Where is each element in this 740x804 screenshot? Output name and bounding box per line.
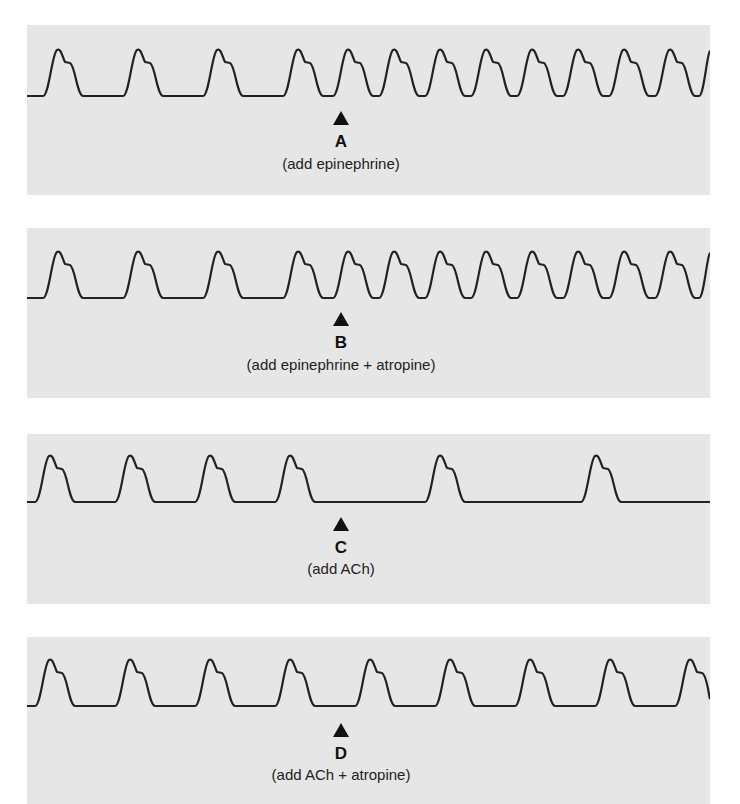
panel-letter: B [335,333,347,353]
triangle-marker-icon [333,111,349,125]
panel-letter: D [335,744,347,764]
panel-b: B (add epinephrine + atropine) [27,228,710,398]
panel-caption: (add ACh) [307,560,375,577]
panel-caption: (add ACh + atropine) [272,766,411,783]
panel-letter: C [335,538,347,558]
triangle-marker-icon [333,723,349,737]
panel-letter: A [335,132,347,152]
panel-d: D (add ACh + atropine) [27,637,710,804]
panel-c: C (add ACh) [27,434,710,604]
heartbeat-trace-c [27,434,710,604]
panel-caption: (add epinephrine) [282,155,400,172]
triangle-marker-icon [333,517,349,531]
triangle-marker-icon [333,312,349,326]
panel-caption: (add epinephrine + atropine) [247,356,436,373]
panel-a: A (add epinephrine) [27,25,710,195]
